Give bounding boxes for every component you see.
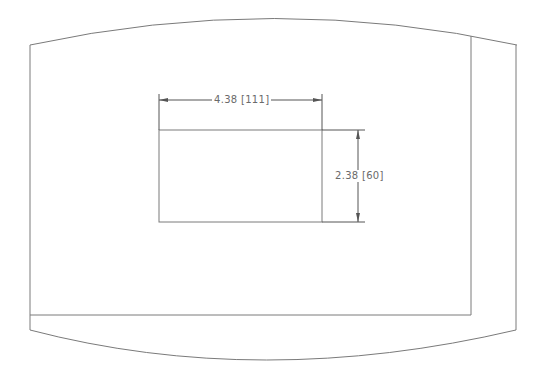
height-arrow-bottom-icon xyxy=(356,213,360,222)
width-dimension-label: 4.38 [111] xyxy=(212,94,271,106)
width-arrow-right-icon xyxy=(313,98,322,102)
height-arrow-top-icon xyxy=(356,130,360,139)
outer-bottom-arc xyxy=(30,330,516,360)
width-arrow-left-icon xyxy=(159,98,168,102)
outer-top-arc xyxy=(30,19,517,46)
cutout-rectangle xyxy=(159,130,322,222)
height-dimension-label: 2.38 [60] xyxy=(333,170,386,182)
drawing-canvas xyxy=(0,0,542,369)
